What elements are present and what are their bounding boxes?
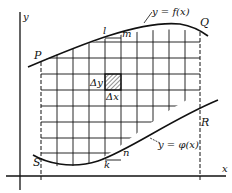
- point-R: R: [200, 116, 209, 129]
- delta-x-label: Δx: [105, 91, 119, 102]
- point-n: n: [123, 147, 129, 158]
- lower-curve-label: y = φ(x): [157, 139, 199, 150]
- x-axis-label: x: [222, 163, 228, 174]
- delta-y-label: Δy: [89, 77, 103, 88]
- upper-curve-label: y = f(x): [151, 6, 190, 17]
- point-S: S: [33, 156, 41, 169]
- double-integral-region-diagram: y x P Q R S l m k n y = f(x) y = φ(x) Δy…: [0, 0, 232, 193]
- point-l: l: [103, 25, 106, 36]
- area-element-hatched: [105, 74, 121, 90]
- point-k: k: [104, 159, 110, 170]
- point-m: m: [122, 28, 131, 39]
- upper-curve-leader: [144, 12, 152, 23]
- upper-curve: [28, 24, 208, 67]
- point-P: P: [33, 49, 42, 62]
- point-Q: Q: [200, 16, 209, 29]
- y-axis-label: y: [22, 11, 29, 22]
